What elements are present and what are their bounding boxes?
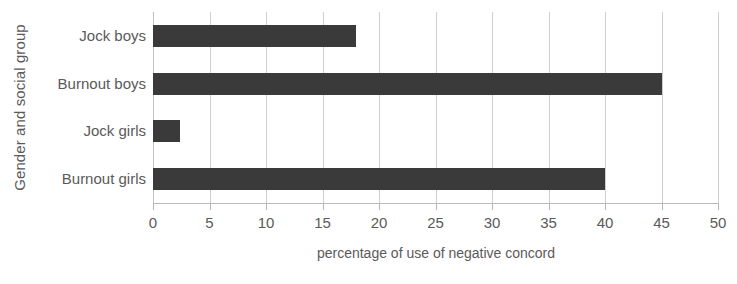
x-axis-tick-label: 15 [303,214,343,231]
x-axis-tick-mark [379,204,380,210]
y-axis-tick-labels: Jock boysBurnout boysJock girlsBurnout g… [22,12,146,203]
x-axis-tick-label: 50 [698,214,737,231]
x-axis-tick-label: 35 [529,214,569,231]
x-axis-tick-label: 0 [133,214,173,231]
gridline-50 [718,12,719,203]
x-axis-tick-mark [210,204,211,210]
bar [153,25,356,47]
bar [153,120,180,142]
x-axis-tick-label: 25 [416,214,456,231]
x-axis-tick-mark [436,204,437,210]
gridline-45 [662,12,663,203]
bar-chart: Gender and social group Jock boysBurnout… [0,0,737,284]
y-axis-tick-label: Jock boys [22,28,146,43]
x-axis-tick-mark [266,204,267,210]
y-axis-tick-label: Burnout girls [22,171,146,186]
x-axis-tick-mark [605,204,606,210]
x-axis-tick-label: 30 [472,214,512,231]
x-axis-tick-label: 20 [359,214,399,231]
x-axis-tick-label: 10 [246,214,286,231]
x-axis-tick-label: 5 [190,214,230,231]
plot-area [153,12,718,203]
x-axis-tick-label: 45 [642,214,682,231]
x-axis-tick-mark [323,204,324,210]
x-axis-tick-mark [492,204,493,210]
x-axis-tick-mark [662,204,663,210]
bar [153,168,605,190]
x-axis-tick-mark [549,204,550,210]
x-axis-tick-label: 40 [585,214,625,231]
x-axis-title: percentage of use of negative concord [153,245,719,261]
y-axis-tick-label: Burnout boys [22,76,146,91]
x-axis-tick-mark [153,204,154,210]
x-axis-tick-mark [718,204,719,210]
bar [153,73,662,95]
gridline-40 [605,12,606,203]
y-axis-tick-label: Jock girls [22,123,146,138]
